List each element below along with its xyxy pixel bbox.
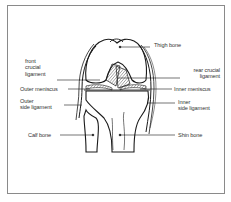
label-inner-meniscus: Inner meniscus — [174, 86, 211, 92]
label-shin-bone: Shin bone — [178, 132, 202, 138]
label-outer-side-ligament: Outer side ligament — [20, 98, 52, 111]
label-outer-meniscus: Outer meniscus — [20, 86, 58, 92]
label-thigh-bone: Thigh bone — [154, 42, 181, 48]
label-front-crucial-ligament: front crucial ligament — [25, 58, 45, 77]
label-rear-crucial-ligament: rear crucial ligament — [182, 67, 220, 80]
label-calf-bone: Calf bone — [28, 132, 51, 138]
calf-bone — [84, 110, 98, 152]
label-inner-side-ligament: Inner side ligament — [178, 99, 210, 112]
